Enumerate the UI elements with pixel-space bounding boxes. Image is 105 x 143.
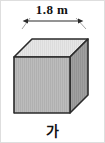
dimension-label: 1.8 m bbox=[36, 2, 68, 17]
cube-diagram-svg: 1.8 m 가 bbox=[0, 0, 105, 143]
figure-caption: 가 bbox=[46, 123, 59, 139]
dimension-extension-line-right bbox=[76, 18, 86, 29]
cube-figure: 1.8 m 가 bbox=[0, 0, 105, 143]
dimension-extension-line-left bbox=[22, 18, 30, 29]
cube-face-front bbox=[14, 57, 70, 113]
